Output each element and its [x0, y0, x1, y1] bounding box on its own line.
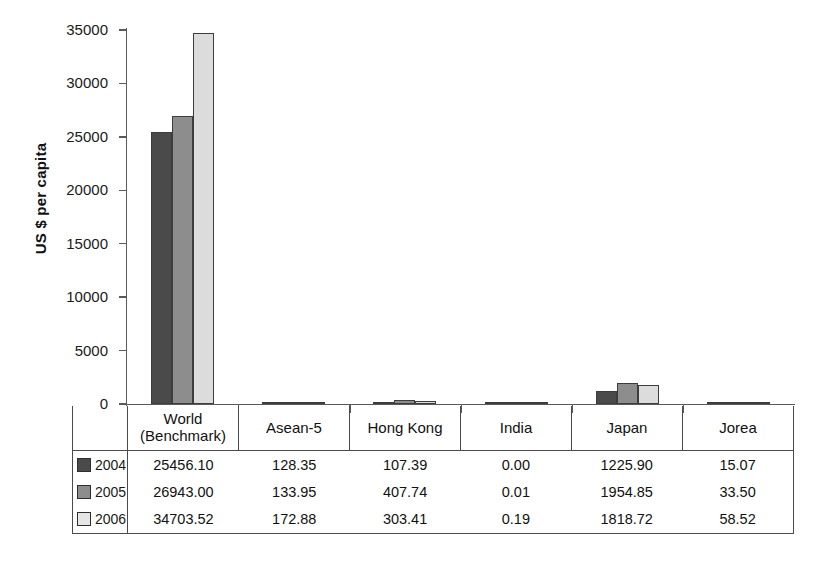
plot-area [127, 30, 794, 404]
table-cell-value: 1954.85 [571, 484, 682, 500]
table-cell-value: 0.01 [460, 484, 571, 500]
category-header-cell: Japan [572, 406, 683, 450]
table-cell-value: 133.95 [239, 484, 350, 500]
bar-2006 [638, 385, 659, 404]
category-label-line: India [500, 420, 533, 437]
table-cell-value: 1225.90 [571, 457, 682, 473]
category-label-line: Asean-5 [266, 420, 322, 437]
table-cell-value: 25456.10 [128, 457, 239, 473]
category-header-cell: Asean-5 [239, 406, 350, 450]
bar-2006 [193, 33, 214, 404]
table-cell-value: 34703.52 [128, 511, 239, 527]
bar-group [596, 30, 659, 404]
series-value-table: 200425456.10128.35107.390.001225.9015.07… [72, 450, 794, 534]
table-cell-value: 0.19 [460, 511, 571, 527]
table-cell-value: 303.41 [350, 511, 461, 527]
bar-2005 [172, 116, 193, 404]
table-row: 200425456.10128.35107.390.001225.9015.07 [73, 451, 793, 478]
category-label-line: World [140, 411, 226, 428]
legend-swatch-2005 [77, 485, 91, 499]
bar-2004 [373, 402, 394, 404]
legend-label-2006: 2006 [95, 511, 126, 527]
data-table: World(Benchmark)Asean-5Hong KongIndiaJap… [72, 406, 794, 534]
category-label-line: Hong Kong [367, 420, 442, 437]
bar-2004 [262, 402, 283, 404]
y-axis-tick-label: 20000 [30, 182, 108, 197]
legend-swatch-2006 [77, 512, 91, 526]
y-axis-tick-label: 10000 [30, 289, 108, 304]
table-cell-value: 15.07 [682, 457, 793, 473]
y-axis-tick-label: 25000 [30, 129, 108, 144]
legend-cell-2004: 2004 [73, 451, 128, 478]
table-row: 200526943.00133.95407.740.011954.8533.50 [73, 478, 793, 505]
legend-cell-2006: 2006 [73, 506, 128, 533]
table-cell-value: 172.88 [239, 511, 350, 527]
chart-figure: US $ per capita 050001000015000200002500… [0, 0, 821, 564]
table-cell-value: 128.35 [239, 457, 350, 473]
y-axis-tick-label: 30000 [30, 75, 108, 90]
y-axis-tick-label: 5000 [30, 343, 108, 358]
table-cell-value: 407.74 [350, 484, 461, 500]
bar-2004 [596, 391, 617, 404]
bar-2006 [749, 402, 770, 404]
y-axis-tick-label: 15000 [30, 236, 108, 251]
legend-label-2004: 2004 [95, 457, 126, 473]
category-header-cell: India [461, 406, 572, 450]
table-cell-value: 107.39 [350, 457, 461, 473]
table-row: 200634703.52172.88303.410.191818.7258.52 [73, 506, 793, 533]
table-cell-value: 0.00 [460, 457, 571, 473]
category-label-line: Japan [607, 420, 648, 437]
category-label-line: (Benchmark) [140, 428, 226, 445]
bar-group [151, 30, 214, 404]
table-cell-value: 33.50 [682, 484, 793, 500]
bar-2006 [527, 402, 548, 404]
bar-2005 [283, 402, 304, 404]
category-header-cell: Hong Kong [350, 406, 461, 450]
bar-2006 [415, 401, 436, 404]
bar-2004 [485, 402, 506, 404]
bar-2005 [728, 402, 749, 404]
bar-2004 [151, 132, 172, 404]
bar-2006 [304, 402, 325, 404]
category-header-cell: World(Benchmark) [128, 406, 239, 450]
bar-group [262, 30, 325, 404]
legend-cell-2005: 2005 [73, 478, 128, 505]
bar-group [707, 30, 770, 404]
bar-2005 [506, 402, 527, 404]
legend-label-2005: 2005 [95, 484, 126, 500]
bar-group [373, 30, 436, 404]
table-cell-value: 26943.00 [128, 484, 239, 500]
category-header-spacer [73, 406, 128, 450]
bar-2005 [394, 400, 415, 404]
table-cell-value: 58.52 [682, 511, 793, 527]
category-header-cell: Jorea [683, 406, 794, 450]
category-header-row: World(Benchmark)Asean-5Hong KongIndiaJap… [72, 406, 794, 450]
category-label-line: Jorea [719, 420, 757, 437]
bar-2004 [707, 402, 728, 404]
y-axis-tick-label: 35000 [30, 22, 108, 37]
bar-group [485, 30, 548, 404]
legend-swatch-2004 [77, 458, 91, 472]
bar-2005 [617, 383, 638, 404]
table-cell-value: 1818.72 [571, 511, 682, 527]
